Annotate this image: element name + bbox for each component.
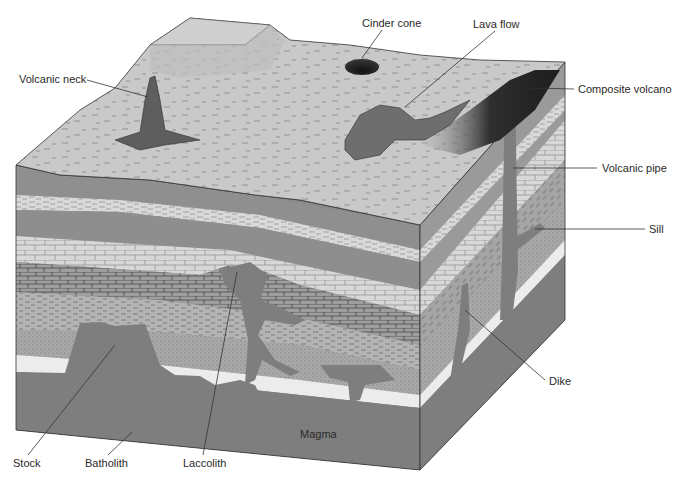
label-volcanic-neck: Volcanic neck (19, 73, 87, 85)
cinder-cone-shape (345, 59, 379, 75)
label-stock: Stock (13, 457, 41, 469)
label-sill: Sill (649, 223, 664, 235)
label-lava-flow: Lava flow (473, 18, 520, 30)
label-dike: Dike (549, 375, 571, 387)
label-volcanic-pipe: Volcanic pipe (602, 162, 667, 174)
label-cinder-cone: Cinder cone (362, 17, 421, 29)
label-batholith: Batholith (85, 457, 128, 469)
label-laccolith: Laccolith (183, 457, 226, 469)
igneous-features-block-diagram: Volcanic neck Cinder cone Lava flow Comp… (0, 0, 685, 489)
label-magma: Magma (300, 428, 338, 440)
label-composite-volcano: Composite volcano (578, 83, 672, 95)
